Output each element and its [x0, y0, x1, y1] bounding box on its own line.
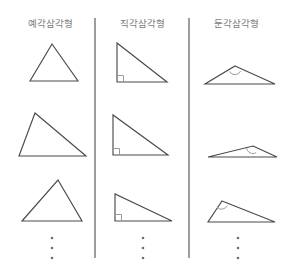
column-title-acute: 예각삼각형: [8, 18, 92, 30]
ellipsis-dot: [237, 257, 240, 260]
acute-triangle-2: [19, 113, 86, 156]
ellipsis-dot: [51, 237, 54, 240]
right-angle-marker-2: [113, 149, 120, 156]
right-angle-marker-1: [117, 76, 124, 83]
obtuse-angle-arc-1: [230, 71, 241, 75]
ellipsis-dot: [237, 247, 240, 250]
obtuse-triangle-2: [208, 146, 277, 157]
right-triangle-3: [115, 194, 172, 221]
acute-triangle-1: [30, 44, 78, 81]
column-title-obtuse: 둔각삼각형: [193, 18, 279, 30]
ellipsis-dot: [51, 247, 54, 250]
right-triangle-2: [113, 115, 168, 155]
obtuse-triangle-1: [205, 66, 275, 84]
obtuse-angle-arc-2: [247, 148, 257, 153]
right-triangle-1: [117, 43, 167, 82]
ellipsis-dot: [142, 257, 145, 260]
ellipsis-dot: [142, 247, 145, 250]
acute-triangle-group: [19, 44, 86, 221]
ellipsis-acute: [51, 237, 54, 260]
triangle-classification-figure: 예각삼각형 직각삼각형 둔각삼각형: [0, 0, 285, 275]
right-angle-marker-3: [115, 215, 122, 222]
column-title-right: 직각삼각형: [99, 18, 185, 30]
ellipsis-dot: [142, 237, 145, 240]
ellipsis-right: [142, 237, 145, 260]
ellipsis-dot: [237, 237, 240, 240]
figure-canvas: [0, 0, 285, 275]
obtuse-triangle-3: [208, 201, 275, 222]
right-triangle-group: [113, 43, 172, 221]
column-dividers: [95, 18, 189, 258]
ellipsis-dot: [51, 257, 54, 260]
obtuse-triangle-group: [205, 66, 277, 222]
acute-triangle-3: [22, 180, 82, 221]
ellipsis-obtuse: [237, 237, 240, 260]
